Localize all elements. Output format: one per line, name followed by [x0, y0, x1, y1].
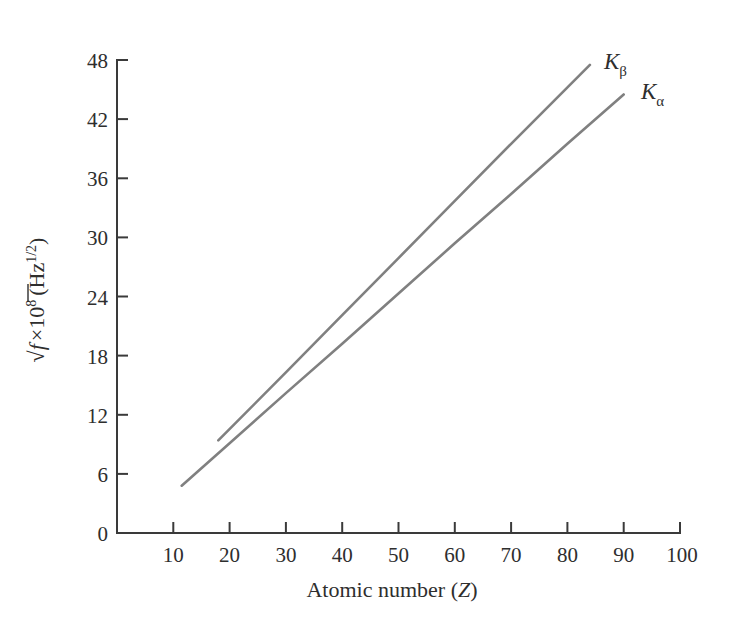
moseley-law-line-chart: 0 6 12 18 24 30 36 42 48 10 20 3	[0, 0, 756, 630]
x-tick-label-30: 30	[275, 543, 296, 567]
data-series-group	[182, 65, 624, 486]
y-axis-ticks	[117, 60, 128, 533]
y-tick-label-24: 24	[87, 286, 109, 310]
series-line-k-alpha	[182, 95, 624, 486]
x-tick-label-100: 100	[666, 543, 698, 567]
x-tick-label-10: 10	[163, 543, 184, 567]
x-tick-label-80: 80	[557, 543, 578, 567]
x-axis-ticks	[173, 522, 680, 533]
x-tick-label-50: 50	[388, 543, 409, 567]
y-tick-label-0: 0	[98, 522, 109, 546]
y-axis-title-group: √f×108(Hz1/2)	[24, 238, 49, 363]
series-label-k-beta: Kβ	[603, 49, 627, 79]
series-line-k-beta	[218, 65, 590, 441]
x-tick-label-60: 60	[444, 543, 465, 567]
x-tick-label-20: 20	[219, 543, 240, 567]
y-tick-label-6: 6	[98, 463, 109, 487]
series-labels-group: Kβ Kα	[603, 49, 664, 109]
chart-figure: 0 6 12 18 24 30 36 42 48 10 20 3	[0, 0, 756, 630]
x-axis-title: Atomic number (Z)	[306, 577, 477, 602]
axes-group	[117, 60, 680, 533]
series-label-k-alpha: Kα	[640, 79, 664, 109]
x-tick-label-70: 70	[501, 543, 522, 567]
x-axis-tick-labels: 10 20 30 40 50 60 70 80 90 100	[163, 543, 698, 567]
y-tick-label-30: 30	[87, 226, 108, 250]
y-tick-label-12: 12	[87, 404, 108, 428]
y-tick-label-42: 42	[87, 108, 108, 132]
y-tick-label-36: 36	[87, 167, 108, 191]
y-tick-label-48: 48	[87, 49, 108, 73]
y-tick-label-18: 18	[87, 345, 108, 369]
y-axis-tick-labels: 0 6 12 18 24 30 36 42 48	[87, 49, 109, 546]
x-tick-label-40: 40	[332, 543, 353, 567]
x-tick-label-90: 90	[613, 543, 634, 567]
